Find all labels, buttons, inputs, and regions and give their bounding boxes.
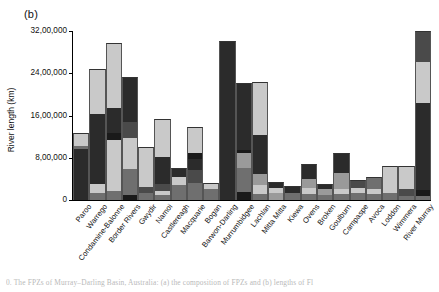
bar-segment[interactable]	[252, 194, 268, 200]
bar-segment[interactable]	[333, 173, 349, 190]
bar-segment[interactable]	[252, 82, 268, 135]
bar-segment[interactable]	[398, 166, 414, 189]
stacked-bar[interactable]	[415, 31, 431, 200]
bar-segment[interactable]	[187, 127, 203, 153]
bar-segment[interactable]	[106, 177, 122, 191]
bar-segment[interactable]	[284, 193, 300, 200]
bar-column[interactable]	[106, 31, 122, 200]
stacked-bar[interactable]	[366, 177, 382, 200]
bar-segment[interactable]	[317, 195, 333, 200]
bar-column[interactable]	[236, 31, 252, 200]
bar-segment[interactable]	[122, 122, 138, 138]
stacked-bar[interactable]	[187, 127, 203, 200]
bar-segment[interactable]	[398, 189, 414, 196]
bar-segment[interactable]	[89, 184, 105, 193]
bar-segment[interactable]	[154, 157, 170, 184]
bar-segment[interactable]	[236, 83, 252, 150]
stacked-bar[interactable]	[203, 183, 219, 200]
stacked-bar[interactable]	[154, 119, 170, 200]
stacked-bar[interactable]	[252, 82, 268, 200]
stacked-bar[interactable]	[73, 133, 89, 200]
bar-segment[interactable]	[415, 196, 431, 200]
bar-column[interactable]	[366, 31, 382, 200]
bar-segment[interactable]	[138, 193, 154, 200]
bar-segment[interactable]	[252, 185, 268, 195]
bar-segment[interactable]	[415, 103, 431, 190]
bar-segment[interactable]	[252, 174, 268, 185]
bar-segment[interactable]	[73, 133, 89, 146]
stacked-bar[interactable]	[219, 41, 235, 200]
bar-segment[interactable]	[398, 196, 414, 200]
bar-column[interactable]	[219, 31, 235, 200]
bar-segment[interactable]	[219, 41, 235, 200]
bar-column[interactable]	[382, 31, 398, 200]
stacked-bar[interactable]	[301, 164, 317, 200]
bar-segment[interactable]	[138, 147, 154, 187]
bar-column[interactable]	[415, 31, 431, 200]
bar-segment[interactable]	[301, 194, 317, 200]
bar-segment[interactable]	[187, 183, 203, 200]
stacked-bar[interactable]	[382, 166, 398, 200]
bar-segment[interactable]	[122, 195, 138, 200]
bar-segment[interactable]	[252, 135, 268, 174]
bar-segment[interactable]	[333, 153, 349, 173]
bar-segment[interactable]	[89, 114, 105, 184]
bar-segment[interactable]	[171, 168, 187, 177]
bar-segment[interactable]	[350, 180, 366, 188]
bar-segment[interactable]	[350, 193, 366, 200]
bar-segment[interactable]	[366, 194, 382, 200]
stacked-bar[interactable]	[398, 166, 414, 200]
bar-segment[interactable]	[415, 31, 431, 62]
stacked-bar[interactable]	[284, 186, 300, 200]
bar-column[interactable]	[350, 31, 366, 200]
bar-segment[interactable]	[106, 140, 122, 177]
bar-segment[interactable]	[203, 189, 219, 200]
bar-segment[interactable]	[154, 195, 170, 200]
bar-segment[interactable]	[106, 43, 122, 107]
bar-segment[interactable]	[268, 193, 284, 200]
bar-column[interactable]	[398, 31, 414, 200]
bar-column[interactable]	[73, 31, 89, 200]
bar-segment[interactable]	[89, 193, 105, 200]
stacked-bar[interactable]	[333, 152, 349, 200]
bar-segment[interactable]	[268, 182, 284, 189]
bar-segment[interactable]	[171, 185, 187, 200]
bar-column[interactable]	[171, 31, 187, 200]
bar-segment[interactable]	[89, 69, 105, 114]
bar-column[interactable]	[268, 31, 284, 200]
stacked-bar[interactable]	[350, 180, 366, 200]
bar-segment[interactable]	[106, 133, 122, 140]
bar-column[interactable]	[284, 31, 300, 200]
bar-segment[interactable]	[236, 192, 252, 200]
bar-segment[interactable]	[73, 149, 89, 200]
bar-segment[interactable]	[122, 138, 138, 169]
bar-segment[interactable]	[301, 164, 317, 179]
bar-column[interactable]	[203, 31, 219, 200]
stacked-bar[interactable]	[317, 184, 333, 200]
bar-column[interactable]	[317, 31, 333, 200]
bar-segment[interactable]	[301, 179, 317, 188]
bar-column[interactable]	[154, 31, 170, 200]
bar-column[interactable]	[301, 31, 317, 200]
bar-column[interactable]	[187, 31, 203, 200]
stacked-bar[interactable]	[138, 147, 154, 200]
bar-segment[interactable]	[122, 77, 138, 122]
bar-column[interactable]	[252, 31, 268, 200]
bar-segment[interactable]	[154, 119, 170, 156]
stacked-bar[interactable]	[268, 182, 284, 200]
bar-segment[interactable]	[333, 194, 349, 200]
bar-column[interactable]	[89, 31, 105, 200]
stacked-bar[interactable]	[236, 83, 252, 200]
bar-segment[interactable]	[236, 168, 252, 191]
bar-segment[interactable]	[106, 191, 122, 200]
bar-column[interactable]	[333, 31, 349, 200]
bar-segment[interactable]	[415, 62, 431, 104]
stacked-bar[interactable]	[89, 69, 105, 200]
bar-segment[interactable]	[122, 169, 138, 195]
bar-segment[interactable]	[171, 177, 187, 185]
bar-column[interactable]	[138, 31, 154, 200]
bar-column[interactable]	[122, 31, 138, 200]
bar-segment[interactable]	[366, 177, 382, 189]
bar-segment[interactable]	[106, 108, 122, 133]
stacked-bar[interactable]	[171, 168, 187, 200]
